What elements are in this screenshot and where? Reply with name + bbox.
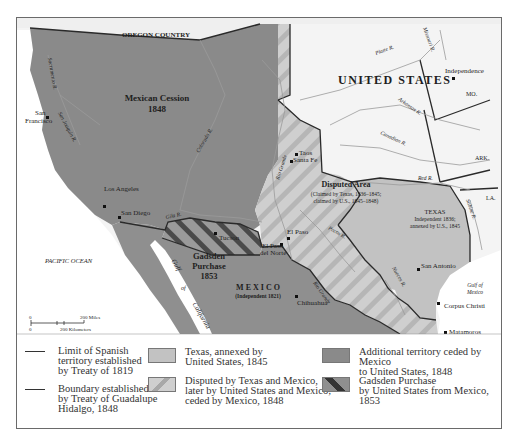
label-mexico: M E X I C O [236, 283, 280, 292]
label-state-mo: MO. [466, 91, 478, 97]
label-texas-note-2: annexed by U.S., 1845 [410, 223, 460, 229]
legend-swatch-texas-icon [148, 348, 176, 363]
label-city-corpus-christi: Corpus Christi [444, 302, 485, 310]
legend-swatch-gadsden-icon [322, 377, 350, 392]
label-gadsden-year: 1853 [201, 271, 218, 281]
label-texas: TEXAS [425, 208, 446, 215]
legend-label-gadsden: Gadsden Purchase by United States from M… [359, 376, 509, 406]
label-city-san-antonio: San Antonio [421, 262, 456, 270]
label-state-la: LA. [486, 195, 496, 201]
label-gulf-of-mexico-2: Mexico [466, 289, 483, 295]
label-city-independence: Independence [445, 67, 484, 75]
label-disputed-note-1: (Claimed by Texas, 1836–1845; [311, 191, 382, 198]
label-disputed-note-2: claimed by U.S., 1845–1848) [314, 198, 379, 205]
label-disputed-area: Disputed Area [322, 180, 371, 189]
label-oregon-country: OREGON COUNTRY [122, 31, 190, 39]
label-city-el-paso: El Paso [287, 228, 309, 236]
map-legend: Limit of Spanish territory established b… [17, 335, 501, 428]
label-mexico-note: (Independent 1821) [235, 293, 281, 300]
legend-swatch-disputed-icon [148, 377, 176, 392]
label-mexican-cession: Mexican Cession [125, 93, 190, 103]
label-city-santa-fe: Santa Fe [293, 156, 317, 164]
label-city-san-francisco-2: Francisco [25, 117, 53, 125]
label-gadsden-2: Purchase [192, 261, 226, 271]
legend-line-1848-icon [25, 389, 45, 390]
label-united-states: UNITED STATES [338, 73, 451, 87]
label-state-ark: ARK. [475, 155, 490, 161]
label-city-chihuahua: Chihuahua [297, 299, 328, 307]
label-pacific-ocean: PACIFIC OCEAN [44, 257, 93, 264]
legend-swatch-cession-icon [322, 348, 350, 363]
label-gadsden-1: Gadsden [193, 251, 225, 261]
scale-kilometers-label: 200 Kilometers [60, 327, 91, 332]
label-texas-note-1: Independent 1836; [414, 216, 456, 222]
label-city-san-diego: San Diego [121, 209, 151, 217]
label-gulf-of-mexico-1: Gulf of [467, 282, 484, 288]
legend-label-texas: Texas, annexed by United States, 1845 [185, 347, 345, 367]
scale-miles-label: 200 Miles [80, 315, 100, 320]
label-city-los-angeles: Los Angeles [104, 185, 139, 193]
label-city-el-paso-del-norte-2: del Norte [260, 249, 286, 257]
legend-label-additional-territory: Additional territory ceded by Mexico to … [359, 347, 509, 377]
legend-line-1819-icon [25, 351, 45, 352]
label-city-tucson: Tucson [219, 234, 240, 242]
label-river-red: Red R. [417, 175, 433, 181]
label-mexican-cession-year: 1848 [148, 104, 167, 114]
label-city-san-francisco-1: San [35, 109, 46, 117]
